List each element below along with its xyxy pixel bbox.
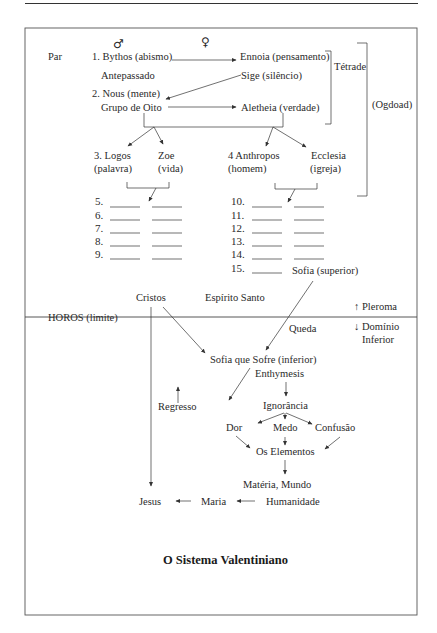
- logos-zoe-bracket: [127, 182, 169, 188]
- logos-label: 3. Logos: [94, 150, 131, 161]
- zoe-sub-label: (vida): [158, 163, 184, 175]
- ennoia-label: Ennoia (pensamento): [240, 51, 330, 63]
- ignorancia-label: Ignorância: [263, 400, 308, 411]
- aeon-number: 5.: [95, 195, 104, 207]
- materia-label: Matéria, Mundo: [243, 479, 311, 490]
- inferior-label: Inferior: [362, 334, 395, 345]
- female-symbol-icon: ♀: [201, 35, 210, 49]
- diagram-caption: O Sistema Valentiniano: [163, 553, 288, 567]
- horos-label: HOROS (limite): [48, 312, 118, 324]
- aeon-number: 13.: [231, 235, 245, 247]
- maria-label: Maria: [201, 496, 226, 507]
- queda-label: Queda: [289, 323, 317, 334]
- aeon-number: 11.: [231, 209, 245, 221]
- regresso-label: Regresso: [158, 401, 197, 412]
- aeon-number: 12.: [231, 222, 245, 234]
- grupo-de-oito-label: Grupo de Oito: [101, 102, 162, 113]
- humanidade-label: Humanidade: [266, 496, 320, 507]
- aeon-number: 6.: [95, 209, 104, 221]
- anthropos-ecclesia-arrow: [288, 189, 295, 202]
- cristos-to-sofia-arrow: [163, 307, 205, 353]
- pleroma-label: Pleroma: [362, 301, 397, 312]
- jesus-label: Jesus: [139, 496, 161, 507]
- ecclesia-label: Ecclesia: [311, 150, 346, 161]
- to-ecclesia-arrow: [273, 127, 306, 147]
- confusao-label: Confusão: [315, 422, 355, 433]
- espirito-santo-label: Espírito Santo: [205, 292, 265, 303]
- zoe-label: Zoe: [158, 150, 175, 161]
- sige-to-nous-arrow: [166, 75, 241, 99]
- cristos-label: Cristos: [136, 292, 166, 303]
- aeon-number: 7.: [95, 222, 104, 234]
- aeon-number: 9.: [95, 248, 104, 260]
- anthropos-label: 4 Anthropos: [228, 150, 280, 161]
- antepassado-label: Antepassado: [101, 70, 155, 81]
- to-logos-arrow: [128, 127, 154, 146]
- bythos-label: 1. Bythos (abismo): [92, 51, 173, 63]
- ecclesia-sub-label: (igreja): [310, 163, 341, 175]
- dor-label: Dor: [226, 422, 243, 433]
- right-aeon-list: 10. 11. 12. 13. 14. 15. Sofia (superior): [231, 195, 359, 277]
- dominio-label: Domínio: [362, 321, 399, 332]
- to-zoe-arrow: [154, 127, 163, 144]
- aeon-number: 14.: [231, 248, 245, 260]
- ogdoad-label: (Ogdoad): [372, 99, 413, 111]
- pleroma-arrow-icon: ↑: [354, 301, 359, 312]
- valentinian-system-diagram: ♂ ♀ Par 1. Bythos (abismo) Ennoia (pensa…: [0, 0, 437, 633]
- aeon-number: 15.: [231, 262, 245, 274]
- aeon-number: 8.: [95, 235, 104, 247]
- queda-arrow: [266, 281, 313, 350]
- nous-label: 2. Nous (mente): [92, 88, 160, 100]
- lower-domain-arrow-icon: ↓: [354, 321, 359, 332]
- elementos-label: Os Elementos: [256, 446, 315, 457]
- to-anthropos-arrow: [266, 127, 273, 146]
- aletheia-label: Aletheia (verdade): [241, 102, 320, 114]
- confusao-to-elementos-arrow: [325, 437, 340, 449]
- sige-label: Sige (silêncio): [241, 70, 302, 82]
- sofia-superior-label: Sofia (superior): [292, 265, 359, 277]
- sofia-inferior-label: Sofia que Sofre (inferior): [210, 354, 317, 366]
- logos-sub-label: (palavra): [94, 163, 132, 175]
- male-symbol-icon: ♂: [113, 37, 124, 51]
- tetrade-label: Tétrade: [334, 61, 366, 72]
- dor-to-elementos-arrow: [236, 436, 250, 448]
- aeon-number: 10.: [231, 195, 245, 207]
- logos-zoe-arrow: [149, 188, 156, 201]
- enthymesis-diagonal-arrow: [229, 368, 250, 400]
- anthropos-ecclesia-bracket: [275, 183, 317, 189]
- enthymesis-label: Enthymesis: [255, 368, 304, 379]
- medo-label: Medo: [273, 422, 298, 433]
- row2-connector: [144, 113, 283, 127]
- anthropos-sub-label: (homem): [228, 163, 267, 175]
- pair-label: Par: [48, 51, 63, 62]
- left-aeon-list: 5. 6. 7. 8. 9.: [95, 195, 182, 260]
